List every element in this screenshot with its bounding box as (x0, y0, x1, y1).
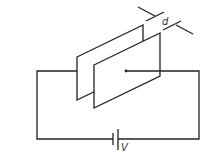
voltage-label: V (121, 142, 129, 153)
connection-dot (125, 70, 128, 73)
separation-label: d (162, 16, 169, 27)
dimension-tick-front (176, 25, 193, 34)
capacitor-circuit-diagram: d V (0, 0, 217, 162)
dimension-tick-back (138, 7, 155, 16)
